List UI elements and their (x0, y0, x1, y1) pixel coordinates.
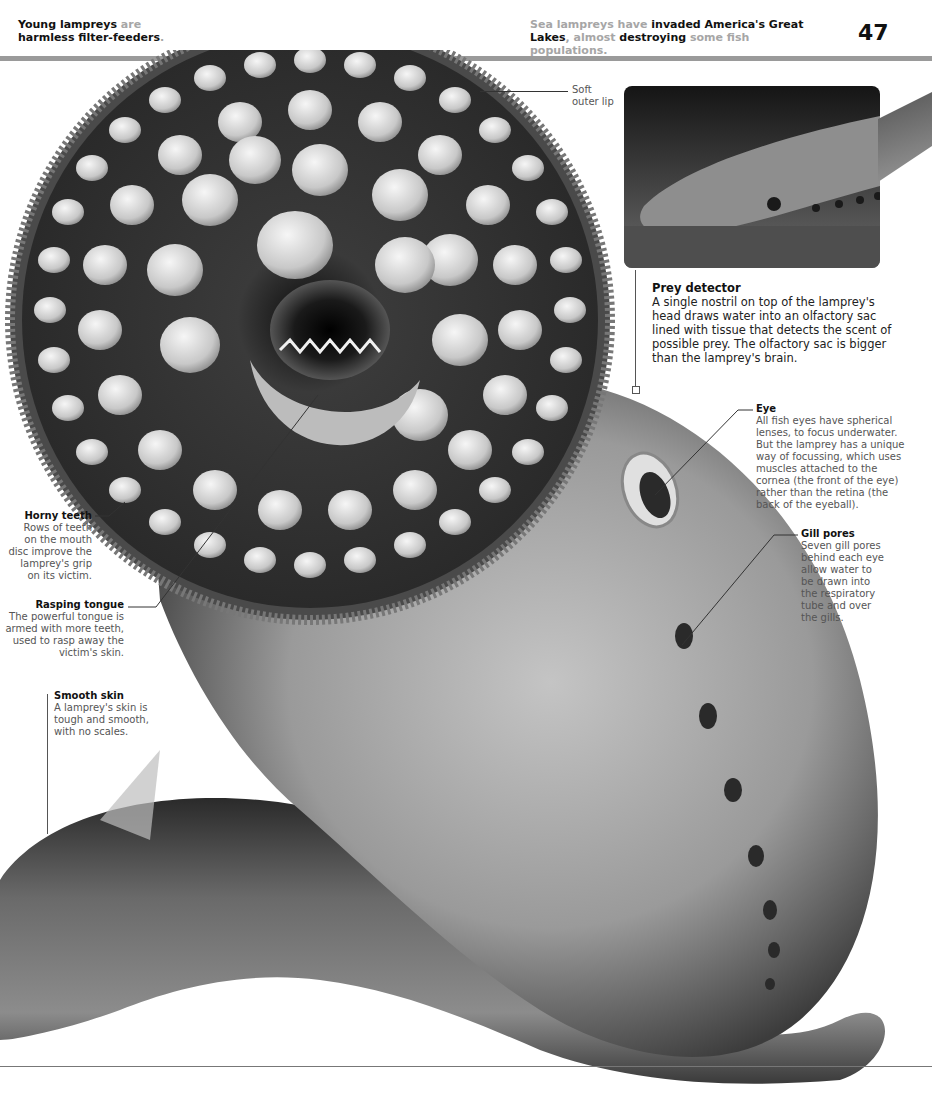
smooth-skin-title: Smooth skin (54, 690, 174, 702)
caption-text: are (121, 18, 141, 31)
prey-detector-title: Prey detector (652, 281, 932, 295)
mouth-opening (270, 280, 390, 380)
rasping-tongue-title: Rasping tongue (0, 599, 124, 611)
eye-title: Eye (756, 403, 932, 415)
horny-teeth-annotation: Horny teeth Rows of teeth on the mouth d… (0, 510, 92, 582)
prey-detector-annotation: Prey detector A single nostril on top of… (652, 281, 932, 365)
gill-pores-leader (682, 530, 802, 650)
smooth-skin-leader (47, 694, 48, 834)
eye-leader (655, 405, 755, 505)
photo-lamprey (624, 86, 880, 268)
footer-divider (0, 1066, 932, 1067)
gill-pores-title: Gill pores (801, 528, 931, 540)
header-left-caption: Young lampreys are harmless filter-feede… (18, 18, 218, 44)
caption-text: Young lampreys (18, 18, 121, 31)
rasping-tongue-leader (128, 390, 328, 610)
prey-detector-leader (635, 270, 636, 388)
caption-text: Sea lampreys have (530, 18, 651, 31)
leader-end-marker (632, 386, 640, 394)
page-number: 47 (858, 20, 889, 45)
smooth-skin-annotation: Smooth skin A lamprey's skin is tough an… (54, 690, 174, 738)
caption-text: harmless filter-feeders (18, 31, 160, 44)
caption-text: invaded America's Great (651, 18, 803, 31)
eye-annotation: Eye All fish eyes have spherical lenses,… (756, 403, 932, 511)
caption-text: destroying (619, 31, 686, 44)
caption-text: Lakes (530, 31, 565, 44)
gill-pores-annotation: Gill pores Seven gill pores behind each … (801, 528, 931, 624)
lamprey-head-photo (624, 86, 880, 268)
caption-text: , almost (565, 31, 619, 44)
soft-lip-leader (480, 91, 568, 92)
caption-text: . (160, 31, 164, 44)
horny-teeth-title: Horny teeth (0, 510, 92, 522)
rasping-tongue-annotation: Rasping tongue The powerful tongue is ar… (0, 599, 124, 659)
soft-lip-label: Soft outer lip (572, 84, 614, 108)
